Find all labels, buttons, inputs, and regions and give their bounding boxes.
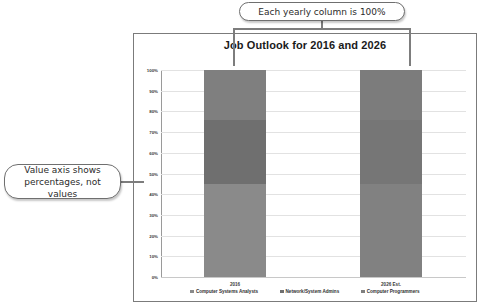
legend-swatch-icon [361,290,365,294]
legend-swatch-icon [190,290,194,294]
callout-left-connector-line [121,181,144,183]
chart-title: Job Outlook for 2016 and 2026 [134,39,476,51]
legend-item-programmers[interactable]: Computer Programmers [361,289,419,294]
bar-segment-systems-analysts-2016[interactable] [204,184,266,277]
ytick-label-80: 80% [149,109,158,114]
chart-legend: Computer Systems Analysts Network/System… [134,289,476,294]
legend-item-network-admins[interactable]: Network/System Admins [280,289,339,294]
ytick-label-30: 30% [149,212,158,217]
bar-segment-programmers-2016[interactable] [204,70,266,120]
xtick-label-2026: 2026 Est. [360,282,422,287]
bar-stack-2016[interactable]: 2016 [204,70,266,277]
ytick-label-90: 90% [149,88,158,93]
annotation-callout-top-text: Each yearly column is 100% [258,6,385,18]
ytick-label-0: 0% [152,275,158,280]
ytick-label-40: 40% [149,192,158,197]
legend-label-programmers: Computer Programmers [367,289,420,294]
callout-top-connector-left-drop [233,28,235,66]
legend-swatch-icon [280,290,284,294]
bar-segment-network-admins-2016[interactable] [204,120,266,184]
ytick-label-70: 70% [149,130,158,135]
annotation-callout-left-text: Value axis shows percentages, not values [13,164,112,200]
bar-segment-systems-analysts-2026[interactable] [360,184,422,277]
gridline-0: 0% [161,277,466,278]
bar-segment-network-admins-2026[interactable] [360,120,422,184]
bar-stack-2026[interactable]: 2026 Est. [360,70,422,277]
bar-segment-programmers-2026[interactable] [360,70,422,120]
ytick-label-60: 60% [149,150,158,155]
ytick-label-10: 10% [149,254,158,259]
ytick-label-20: 20% [149,233,158,238]
plot-area: 100% 90% 80% 70% 60% 50% 40% 30% 20% 10% [161,70,466,277]
ytick-label-50: 50% [149,171,158,176]
chart-container: Job Outlook for 2016 and 2026 100% 90% 8… [133,33,477,302]
xtick-label-2016: 2016 [204,282,266,287]
legend-label-systems-analysts: Computer Systems Analysts [196,289,258,294]
annotation-callout-top: Each yearly column is 100% [239,2,405,21]
legend-label-network-admins: Network/System Admins [286,289,340,294]
callout-top-connector-crossbar [233,28,411,30]
legend-item-systems-analysts[interactable]: Computer Systems Analysts [190,289,258,294]
callout-top-connector-right-drop [409,28,411,66]
annotation-callout-left: Value axis shows percentages, not values [4,164,121,199]
ytick-label-100: 100% [147,68,158,73]
